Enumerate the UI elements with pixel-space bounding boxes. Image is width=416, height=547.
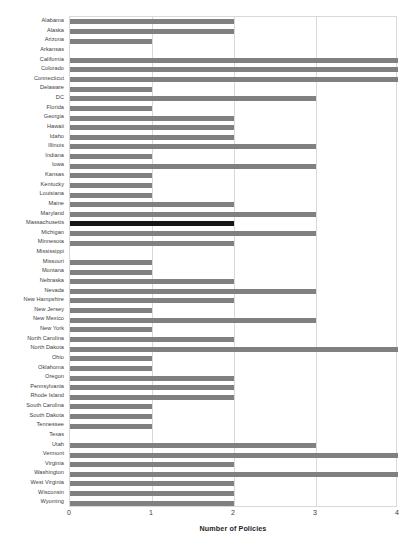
y-axis-label: Oregon: [0, 372, 64, 382]
y-axis-label: Colorado: [0, 64, 64, 74]
policies-by-state-bar-chart: AlabamaAlaskaArizonaArkansasCaliforniaCo…: [0, 0, 416, 547]
bar-row: [70, 325, 396, 335]
bar: [70, 96, 316, 101]
bar: [70, 395, 234, 400]
bar-row: [70, 412, 396, 422]
bar-row: [70, 94, 396, 104]
y-axis-label: Tennessee: [0, 420, 64, 430]
bar-row: [70, 354, 396, 364]
y-axis-label: Illinois: [0, 141, 64, 151]
bar-row: [70, 306, 396, 316]
bar-row: [70, 373, 396, 383]
y-axis-label: DC: [0, 93, 64, 103]
bar: [70, 385, 234, 390]
y-axis-label: North Carolina: [0, 334, 64, 344]
bar-row: [70, 219, 396, 229]
bar-row: [70, 248, 396, 258]
bar-row: [70, 17, 396, 27]
bar: [70, 453, 398, 458]
bar-row: [70, 181, 396, 191]
y-axis-label: Maine: [0, 199, 64, 209]
y-axis-label: Wisconsin: [0, 488, 64, 498]
bar-row: [70, 104, 396, 114]
y-axis-label: Connecticut: [0, 74, 64, 84]
bar: [70, 58, 398, 63]
bar-row: [70, 267, 396, 277]
bar: [70, 173, 152, 178]
bar: [70, 241, 234, 246]
bar-row: [70, 402, 396, 412]
bar-row: [70, 113, 396, 123]
bar-row: [70, 238, 396, 248]
bar: [70, 318, 316, 323]
bar: [70, 231, 316, 236]
bar: [70, 67, 398, 72]
x-tick-3: 3: [313, 509, 317, 516]
bar-row: [70, 84, 396, 94]
y-axis-label: Texas: [0, 430, 64, 440]
y-axis-label: Washington: [0, 468, 64, 478]
y-axis-label: Wyoming: [0, 497, 64, 507]
bar-row: [70, 133, 396, 143]
y-axis-label: Mississippi: [0, 247, 64, 257]
y-axis-label: Delaware: [0, 83, 64, 93]
y-axis-label: Montana: [0, 266, 64, 276]
bar-row: [70, 229, 396, 239]
bar-row: [70, 277, 396, 287]
bar: [70, 298, 234, 303]
y-axis-label: New Mexico: [0, 314, 64, 324]
bar-row: [70, 335, 396, 345]
bar: [70, 116, 234, 121]
y-axis-category-labels: AlabamaAlaskaArizonaArkansasCaliforniaCo…: [0, 16, 67, 507]
bar: [70, 260, 152, 265]
y-axis-label: New York: [0, 324, 64, 334]
bar-row: [70, 36, 396, 46]
bar: [70, 125, 234, 130]
bar: [70, 501, 234, 506]
bar-row: [70, 364, 396, 374]
bar: [70, 270, 152, 275]
bar-row: [70, 200, 396, 210]
y-axis-label: Massachusetts: [0, 218, 64, 228]
bar-row: [70, 210, 396, 220]
bar: [70, 481, 234, 486]
y-axis-label: Kentucky: [0, 180, 64, 190]
bar: [70, 164, 316, 169]
bar-row: [70, 46, 396, 56]
bar: [70, 472, 398, 477]
bar: [70, 77, 398, 82]
y-axis-label: Michigan: [0, 228, 64, 238]
y-axis-label: Utah: [0, 440, 64, 450]
bar-row: [70, 469, 396, 479]
bar: [70, 366, 152, 371]
y-axis-label: Louisiana: [0, 189, 64, 199]
bar: [70, 289, 316, 294]
y-axis-label: Nevada: [0, 286, 64, 296]
bar-row: [70, 152, 396, 162]
x-tick-0: 0: [67, 509, 71, 516]
bar: [70, 414, 152, 419]
bar: [70, 424, 152, 429]
bar: [70, 279, 234, 284]
bar: [70, 404, 152, 409]
bar-row: [70, 431, 396, 441]
y-axis-label: Indiana: [0, 151, 64, 161]
bar-row: [70, 441, 396, 451]
y-axis-label: Idaho: [0, 132, 64, 142]
bar-row: [70, 123, 396, 133]
bar: [70, 327, 152, 332]
y-axis-label: Nebraska: [0, 276, 64, 286]
bar: [70, 443, 316, 448]
y-axis-label: Oklahoma: [0, 363, 64, 373]
y-axis-label: Florida: [0, 103, 64, 113]
y-axis-label: Arizona: [0, 35, 64, 45]
bar-row: [70, 315, 396, 325]
bar-row: [70, 344, 396, 354]
bar-row: [70, 392, 396, 402]
bar: [70, 106, 152, 111]
bar-row: [70, 27, 396, 37]
bar-row: [70, 489, 396, 499]
bar-row: [70, 460, 396, 470]
bar: [70, 347, 398, 352]
y-axis-label: West Virginia: [0, 478, 64, 488]
